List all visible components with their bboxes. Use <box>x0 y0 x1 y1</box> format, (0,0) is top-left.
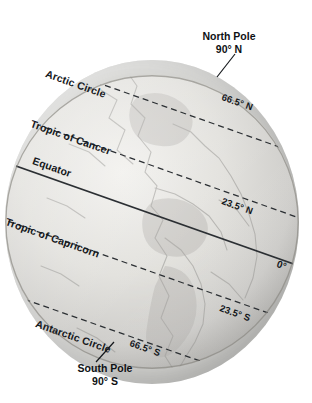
globe-container <box>5 60 299 384</box>
callout-south-pole: South Pole 90° S <box>62 362 148 387</box>
south-pole-value: 90° S <box>62 375 148 388</box>
callout-north-pole: North Pole 90° N <box>186 30 272 55</box>
earth-globe <box>5 60 299 384</box>
figure-canvas: Arctic Circle 66.5° N Tropic of Cancer 2… <box>0 0 312 403</box>
leader-line-south-pole <box>94 340 118 364</box>
north-pole-name: North Pole <box>186 30 272 43</box>
leader-line-north-pole <box>214 53 240 79</box>
